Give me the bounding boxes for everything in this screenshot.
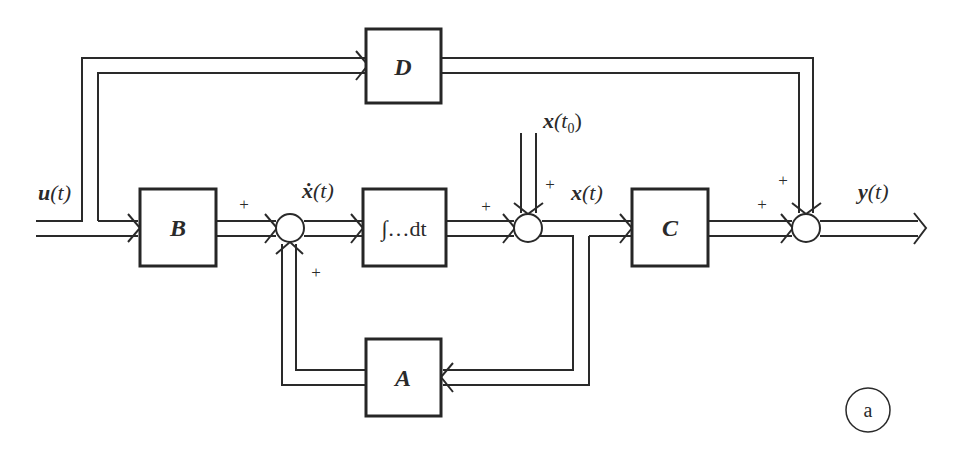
label-state-x: x(t) xyxy=(570,180,603,205)
block-d-label: D xyxy=(393,54,411,80)
bus-sum2-to-c xyxy=(443,214,632,385)
block-integrator-label: ∫…dt xyxy=(379,216,426,242)
label-input-u: u(t) xyxy=(38,180,71,205)
bus-a-to-sum1 xyxy=(276,242,366,385)
panel-tag-label: a xyxy=(864,399,873,421)
label-output-y: y(t) xyxy=(855,179,889,204)
sign-sum1-a: + xyxy=(311,263,321,282)
sign-sum1-b: + xyxy=(239,195,249,214)
summing-junction-2 xyxy=(514,214,542,242)
block-d: D xyxy=(366,29,441,103)
block-b: B xyxy=(140,189,216,266)
block-diagram: B ∫…dt C D A + + + + + + u(t) ẋ(t) x(t0)… xyxy=(0,0,959,459)
arrowhead-into-b xyxy=(128,214,140,242)
bus-c-to-sum3 xyxy=(708,214,793,243)
summing-junction-1 xyxy=(276,214,304,242)
block-a-label: A xyxy=(393,365,411,391)
sign-sum2-x0: + xyxy=(545,175,555,194)
bus-output xyxy=(820,213,926,244)
block-c-label: C xyxy=(662,215,679,241)
bus-b-to-sum1 xyxy=(216,214,277,243)
sign-sum3-d: + xyxy=(778,171,788,190)
block-integrator: ∫…dt xyxy=(363,189,446,266)
arrowhead-into-a xyxy=(441,363,453,392)
block-b-label: B xyxy=(169,215,186,241)
summing-junction-3 xyxy=(792,214,820,242)
bus-integrator-to-sum2 xyxy=(446,214,515,243)
sign-sum3-c: + xyxy=(757,195,767,214)
label-state-derivative: ẋ(t) xyxy=(301,178,334,203)
bus-initial-state xyxy=(514,133,543,214)
block-a: A xyxy=(366,339,441,416)
panel-tag: a xyxy=(846,388,890,432)
label-initial-state: x(t0) xyxy=(542,108,582,136)
block-c: C xyxy=(632,189,708,266)
bus-sum1-to-integrator xyxy=(304,214,363,243)
sign-sum2-integrator: + xyxy=(481,197,491,216)
